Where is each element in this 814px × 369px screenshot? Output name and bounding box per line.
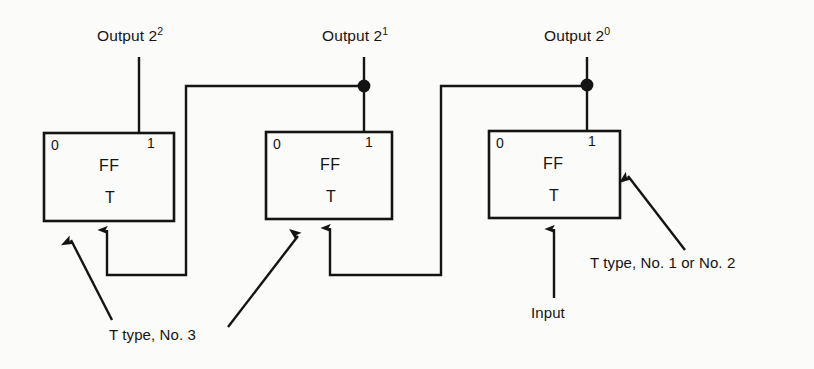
ff-stage-1-pin-1: 1 [365,135,373,149]
ff-stage-0-pin-1: 1 [588,134,596,148]
output-label-2-1-text: Output 2 [322,27,382,44]
ff-box-stage-1[interactable] [266,132,392,219]
ff-stage-1-pin-0: 0 [273,137,281,151]
leader-arrow-to-stage-1 [228,236,298,327]
output-label-2-0-exponent: 0 [604,25,610,37]
ff-stage-0-type-label: T [549,188,559,204]
ff-stage-2-body-label: FF [99,158,120,174]
leader-arrow-to-stage-0 [628,176,685,250]
ff-box-stage-0[interactable] [489,131,620,218]
output-label-2-2: Output 22 [97,28,163,44]
cascade-wire-stage1-to-stage2 [107,86,364,275]
ff-stage-2-pin-1: 1 [147,136,155,150]
output-label-2-1-exponent: 1 [382,25,388,37]
annotation-arrows-group [71,176,685,327]
output-label-2-2-exponent: 2 [157,25,163,37]
diagram-canvas: Output 22 Output 21 Output 20 0 1 FF T 0… [0,0,814,369]
ff-stage-1-body-label: FF [320,157,341,173]
ff-stage-0-body-label: FF [543,156,564,172]
junction-dot-output-2-1 [358,80,371,93]
annotation-t-type-no-3: T type, No. 3 [109,327,196,342]
output-label-2-2-text: Output 2 [97,27,157,44]
ff-box-group [44,131,620,221]
annotation-input: Input [531,305,565,320]
cascade-wire-stage0-to-stage1 [330,86,587,275]
junction-dot-output-2-0 [581,79,594,92]
ff-stage-2-pin-0: 0 [51,138,59,152]
ff-stage-1-type-label: T [326,189,336,205]
ff-stage-2-type-label: T [105,190,115,206]
output-label-2-0-text: Output 2 [544,27,604,44]
ff-stage-0-pin-0: 0 [496,136,504,150]
output-label-2-1: Output 21 [322,28,388,44]
output-lines-group [139,57,587,134]
annotation-t-type-no-1-or-no-2: T type, No. 1 or No. 2 [590,255,735,270]
circuit-schematic [0,0,814,369]
output-label-2-0: Output 20 [544,28,610,44]
